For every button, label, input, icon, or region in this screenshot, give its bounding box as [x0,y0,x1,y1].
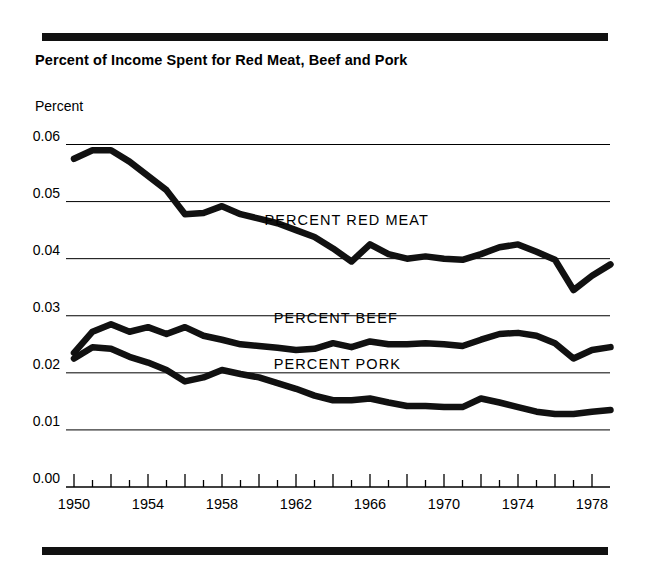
plot-area: 0.000.010.020.030.040.050.06195019541958… [0,0,649,583]
x-tick-label: 1954 [118,496,178,512]
y-tick-label: 0.04 [14,242,60,258]
series-line-2 [74,324,611,358]
x-tick-label: 1962 [266,496,326,512]
x-tick-label: 1950 [44,496,104,512]
y-tick-label: 0.00 [14,470,60,486]
x-tick-label: 1966 [340,496,400,512]
bottom-rule [42,547,608,555]
x-tick-label: 1978 [562,496,622,512]
series-annotation-1: PERCENT RED MEAT [265,212,430,228]
series-annotation-2: PERCENT BEEF [274,310,398,326]
y-tick-label: 0.05 [14,185,60,201]
y-tick-label: 0.03 [14,299,60,315]
x-tick-label: 1958 [192,496,252,512]
chart-figure: Percent of Income Spent for Red Meat, Be… [0,0,649,583]
x-tick-label: 1974 [488,496,548,512]
y-tick-label: 0.02 [14,356,60,372]
x-tick-label: 1970 [414,496,474,512]
series-annotation-3: PERCENT PORK [274,356,401,372]
y-tick-label: 0.06 [14,128,60,144]
y-tick-label: 0.01 [14,413,60,429]
